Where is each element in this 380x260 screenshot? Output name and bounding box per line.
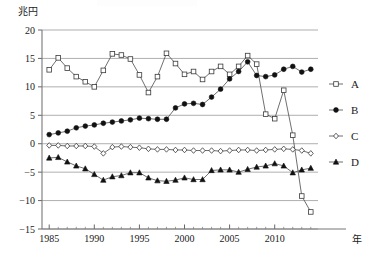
datapoint-B-2006 [236,69,241,74]
datapoint-B-1989 [83,124,88,129]
datapoint-B-1985 [47,132,52,137]
datapoint-A-2012 [290,133,295,138]
datapoint-A-1998 [164,51,169,56]
y-tick-label-20: 20 [25,25,35,36]
gridlines-group [42,30,318,229]
legend-entry-A[interactable]: A [329,78,359,90]
datapoint-A-1985 [47,68,52,73]
datapoint-A-1987 [65,66,70,71]
datapoint-A-2002 [200,77,205,82]
datapoint-B-2007 [245,59,250,64]
datapoint-D-1986 [56,154,61,159]
datapoint-A-2004 [218,64,223,69]
datapoint-D-1996 [146,175,151,180]
datapoint-C-2004 [218,148,223,154]
datapoint-A-2009 [263,112,268,117]
line-chart-plot: 20151050−5−10−15 19851990199520002005201… [0,0,380,260]
datapoint-C-2009 [263,147,268,153]
datapoint-C-1997 [155,147,160,153]
x-tick-label-1995: 1995 [129,233,149,244]
datapoint-C-1995 [137,145,142,151]
datapoint-B-2002 [200,102,205,107]
datapoint-B-1998 [164,117,169,122]
legend-entry-D[interactable]: D [329,156,359,168]
datapoint-A-1991 [101,68,106,73]
series-C [47,143,314,157]
datapoint-A-2008 [254,62,259,67]
datapoint-B-2010 [272,73,277,78]
datapoint-B-2005 [227,76,232,81]
datapoint-D-1988 [74,163,79,168]
datapoint-A-1997 [155,74,160,79]
axes-group [42,30,346,229]
y-axis-unit-label: 兆円 [18,6,38,17]
datapoint-B-2001 [191,101,196,106]
data-series-group [47,51,314,214]
datapoint-A-2014 [308,210,313,215]
datapoint-A-1992 [110,52,115,57]
legend-label-B: B [351,104,358,116]
datapoint-B-1991 [101,121,106,126]
datapoint-C-2007 [245,147,250,153]
datapoint-A-2007 [245,53,250,58]
x-tick-labels-group: 198519901995200020052010 [39,233,284,244]
datapoint-B-1996 [146,116,151,121]
datapoint-C-2006 [236,147,241,153]
datapoint-C-2000 [182,147,187,153]
datapoint-C-2013 [299,148,304,154]
datapoint-B-1992 [110,120,115,125]
x-tick-label-1990: 1990 [84,233,104,244]
datapoint-C-1998 [164,147,169,153]
datapoint-B-1994 [128,117,133,122]
datapoint-C-1996 [146,146,151,152]
datapoint-B-1999 [173,105,178,110]
datapoint-A-2003 [209,69,214,74]
y-tick-labels-group: 20151050−5−10−15 [19,25,35,235]
datapoint-B-2012 [290,64,295,69]
legend-label-C: C [351,130,358,142]
legend-marker-B [334,108,339,113]
legend-marker-C [334,133,339,139]
datapoint-D-2000 [182,175,187,180]
cropped-title-artifact [97,0,197,6]
y-tick-label--5: −5 [24,167,35,178]
series-D [47,154,314,183]
datapoint-C-1993 [119,144,124,150]
datapoint-B-2000 [182,102,187,107]
datapoint-A-2000 [182,72,187,77]
datapoint-B-2003 [209,95,214,100]
datapoint-A-1995 [137,73,142,78]
legend-group: ABCD [329,78,359,168]
y-tick-label--10: −10 [19,195,35,206]
datapoint-A-1996 [146,90,151,95]
datapoint-D-2010 [272,161,277,166]
datapoint-B-1986 [56,131,61,136]
datapoint-B-2004 [218,87,223,92]
datapoint-A-1986 [56,56,61,61]
datapoint-B-1988 [74,125,79,130]
datapoint-B-1987 [65,129,70,134]
datapoint-C-1990 [92,144,97,150]
legend-label-A: A [351,78,359,90]
datapoint-C-1992 [110,144,115,150]
datapoint-C-2011 [281,146,286,152]
y-tick-label-10: 10 [25,81,35,92]
x-tick-label-1985: 1985 [39,233,59,244]
datapoint-A-1990 [92,85,97,90]
datapoint-A-1999 [173,61,178,66]
datapoint-A-2010 [272,116,277,121]
datapoint-C-1999 [173,147,178,153]
chart-container: 20151050−5−10−15 19851990199520002005201… [0,0,380,260]
y-tick-label-5: 5 [30,110,35,121]
datapoint-B-2008 [254,73,259,78]
datapoint-B-1993 [119,119,124,124]
legend-entry-C[interactable]: C [329,130,358,142]
x-tick-label-2000: 2000 [175,233,195,244]
datapoint-B-1997 [155,117,160,122]
x-tick-label-2005: 2005 [220,233,240,244]
datapoint-A-1988 [74,74,79,79]
datapoint-B-1995 [137,116,142,121]
y-tick-label-0: 0 [30,138,35,149]
legend-entry-B[interactable]: B [329,104,358,116]
datapoint-B-1990 [92,123,97,128]
